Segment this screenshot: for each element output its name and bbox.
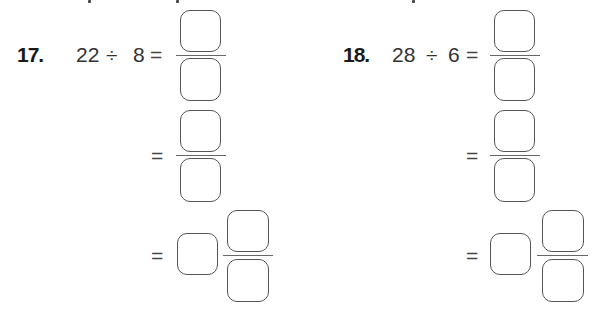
problem-number: 18.: [343, 44, 369, 65]
fraction-bar: [176, 155, 226, 156]
equals-sign: =: [466, 44, 478, 65]
fraction-bar: [176, 55, 226, 56]
fraction-bar: [223, 255, 273, 256]
equals-sign: =: [150, 44, 162, 65]
fraction-bar: [490, 55, 540, 56]
equals-sign: =: [151, 145, 163, 166]
divide-operator: ÷: [426, 44, 438, 65]
problem-number: 17.: [17, 44, 43, 65]
divisor: 6: [448, 44, 460, 65]
equals-sign: =: [466, 245, 478, 266]
numerator-answer-box[interactable]: [227, 210, 269, 252]
dividend: 22: [76, 44, 99, 65]
equals-sign: =: [466, 145, 478, 166]
cropped-glyph-fragment: [412, 0, 415, 3]
fraction-bar: [537, 255, 588, 256]
denominator-answer-box[interactable]: [494, 58, 535, 101]
numerator-answer-box[interactable]: [542, 210, 584, 252]
denominator-answer-box[interactable]: [494, 158, 535, 202]
denominator-answer-box[interactable]: [180, 58, 221, 101]
whole-number-answer-box[interactable]: [177, 233, 218, 275]
numerator-answer-box[interactable]: [180, 10, 221, 52]
denominator-answer-box[interactable]: [542, 259, 584, 302]
divide-operator: ÷: [106, 44, 118, 65]
whole-number-answer-box[interactable]: [490, 233, 531, 275]
equals-sign: =: [151, 245, 163, 266]
fraction-bar: [490, 155, 540, 156]
numerator-answer-box[interactable]: [494, 110, 535, 152]
numerator-answer-box[interactable]: [494, 10, 535, 52]
cropped-glyph-fragment: [88, 0, 91, 3]
denominator-answer-box[interactable]: [227, 259, 269, 302]
dividend: 28: [392, 44, 415, 65]
numerator-answer-box[interactable]: [180, 110, 221, 152]
cropped-glyph-fragment: [176, 0, 179, 3]
denominator-answer-box[interactable]: [180, 158, 221, 202]
divisor: 8: [133, 44, 145, 65]
